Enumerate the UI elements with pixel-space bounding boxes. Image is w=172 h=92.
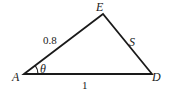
side-label-AE: 0.8	[43, 34, 57, 46]
side-label-AD: 1	[82, 79, 88, 91]
vertex-label-A: A	[11, 70, 20, 84]
vertex-label-E: E	[95, 0, 104, 14]
vertex-label-D: D	[151, 70, 161, 84]
angle-label-theta: θ	[40, 62, 46, 76]
angle-arc-theta	[35, 66, 38, 75]
triangle-diagram: E A D 0.8 S 1 θ	[0, 0, 172, 92]
side-label-ED: S	[129, 35, 135, 49]
